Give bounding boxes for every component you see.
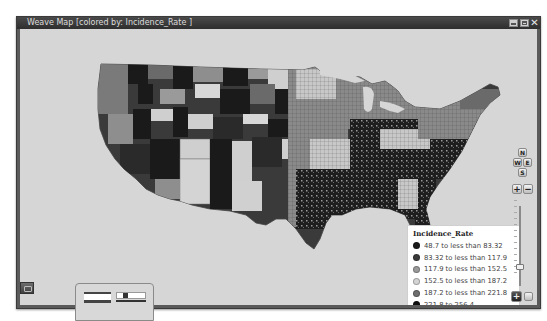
legend-item[interactable]: 117.9 to less than 152.5 [413,264,515,276]
zoom-in-button[interactable]: + [512,184,522,194]
tool-panel [75,283,154,321]
line-style-swatch-icon[interactable] [84,292,111,303]
legend-item[interactable]: 221.8 to 256.4 [413,299,515,305]
slider-tick [514,230,517,231]
close-button[interactable]: ✕ [530,19,539,27]
pan-east-button[interactable]: E [523,158,532,167]
title-bar[interactable]: Weave Map [colored by: Incidence_Rate ] … [17,17,540,29]
fill-slider-icon[interactable] [116,292,146,299]
window-menu-icon[interactable] [20,282,34,294]
pan-south-button[interactable]: S [518,168,527,177]
zoom-slider-track[interactable] [519,206,521,286]
minimize-button[interactable] [509,19,518,27]
zoom-out-button[interactable]: − [523,184,533,194]
legend-item[interactable]: 187.2 to less than 221.8 [413,287,515,299]
window-title: Weave Map [colored by: Incidence_Rate ] [27,17,192,29]
map-canvas[interactable]: Incidence_Rate 48.7 to less than 83.32 8… [20,29,537,305]
legend-label: 117.9 to less than 152.5 [424,265,507,273]
slider-tick [514,212,517,213]
legend-label: 48.7 to less than 83.32 [424,242,503,250]
slider-tick [514,272,517,273]
legend-title: Incidence_Rate [413,229,515,238]
slider-tick [514,236,517,237]
weave-map-window: Weave Map [colored by: Incidence_Rate ] … [16,16,541,309]
slider-tick [514,218,517,219]
slider-tick [514,200,517,201]
legend-swatch [413,301,420,305]
legend-label: 187.2 to less than 221.8 [424,289,507,297]
pan-west-button[interactable]: W [513,158,522,167]
zoom-to-extent-button[interactable]: + [511,291,522,302]
zoom-slider-thumb[interactable] [516,264,524,270]
slider-tick [514,206,517,207]
slider-tick [514,248,517,249]
legend-swatch [413,278,420,285]
fill-bar-icon [116,300,146,302]
slider-tick [514,242,517,243]
legend-panel: Incidence_Rate 48.7 to less than 83.32 8… [407,225,520,305]
slider-tick [514,224,517,225]
legend-swatch [413,266,420,273]
resize-handle-icon[interactable] [524,292,533,301]
legend-label: 83.32 to less than 117.9 [424,254,507,262]
maximize-button[interactable] [520,19,529,27]
slider-tick [514,260,517,261]
slider-tick [514,254,517,255]
legend-item[interactable]: 48.7 to less than 83.32 [413,240,515,252]
legend-swatch [413,290,420,297]
legend-item[interactable]: 152.5 to less than 187.2 [413,275,515,287]
legend-item[interactable]: 83.32 to less than 117.9 [413,252,515,264]
legend-swatch [413,242,420,249]
pan-north-button[interactable]: N [518,148,527,157]
legend-label: 152.5 to less than 187.2 [424,277,507,285]
legend-label: 221.8 to 256.4 [424,301,474,305]
legend-swatch [413,254,420,261]
